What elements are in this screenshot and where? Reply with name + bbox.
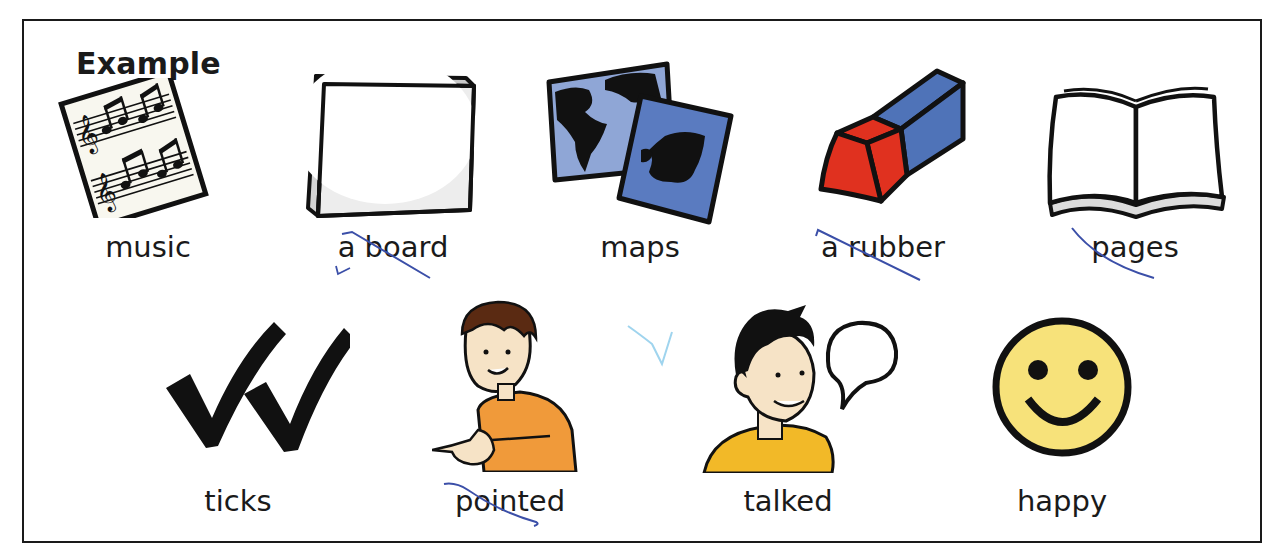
example-label: Example xyxy=(76,46,221,81)
item-label-board: a board xyxy=(338,230,449,264)
item-label-happy: happy xyxy=(1017,484,1107,518)
boy-talking-icon xyxy=(702,305,912,473)
maps-icon xyxy=(545,58,735,228)
item-label-pages: pages xyxy=(1091,230,1179,264)
sheet-music-icon: 𝄞 𝄞 xyxy=(55,78,210,218)
double-tick-icon xyxy=(160,318,350,458)
item-label-pointed: pointed xyxy=(455,484,565,518)
item-label-talked: talked xyxy=(743,484,832,518)
boy-pointing-icon xyxy=(432,300,582,472)
item-ticks xyxy=(160,318,350,458)
open-book-icon xyxy=(1040,85,1230,220)
item-label-ticks: ticks xyxy=(204,484,271,518)
item-label-rubber: a rubber xyxy=(821,230,945,264)
smiley-face-icon xyxy=(990,315,1135,460)
eraser-icon xyxy=(815,65,975,215)
item-label-music: music xyxy=(105,230,191,264)
item-maps xyxy=(545,58,735,228)
item-label-maps: maps xyxy=(600,230,680,264)
item-happy xyxy=(990,315,1135,460)
item-rubber xyxy=(815,65,975,215)
item-pages xyxy=(1040,85,1230,220)
whiteboard-icon xyxy=(290,68,480,218)
item-music: 𝄞 𝄞 xyxy=(55,78,210,218)
item-pointed xyxy=(432,300,582,472)
item-board xyxy=(290,68,480,218)
item-talked xyxy=(702,305,912,473)
